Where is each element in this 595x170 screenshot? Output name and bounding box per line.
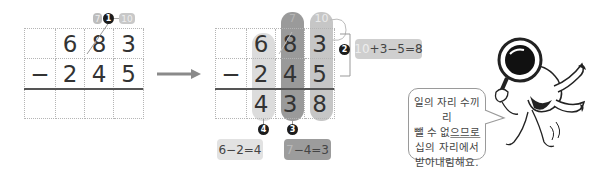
cell: −	[25, 59, 56, 89]
bubble-line-2: 뺄 수 없으므로	[413, 125, 481, 140]
crossed-to-tag: 7	[93, 13, 102, 24]
cell: 3	[114, 29, 144, 59]
cell	[56, 89, 85, 119]
borrowed-tag: 10	[119, 13, 135, 24]
step-2-prefix: 10	[354, 42, 369, 56]
right-arrow-icon	[155, 68, 201, 80]
step-3-badge: 3	[287, 124, 298, 135]
step-2-rest: +3−5=8	[370, 42, 423, 56]
cell: 4	[85, 59, 114, 89]
cell: 6	[247, 29, 276, 59]
cell: 4	[247, 89, 276, 119]
cell	[25, 29, 56, 59]
cell: 4	[276, 59, 305, 89]
cell	[25, 89, 56, 119]
step-2-equation: 10+3−5=8	[355, 39, 422, 59]
cell: 5	[114, 59, 144, 89]
cell: 3	[276, 89, 305, 119]
cell: −	[216, 59, 247, 89]
cell: 8	[305, 89, 335, 119]
bubble-line-1: 일의 자리 수끼리	[413, 95, 481, 125]
cell: 2	[56, 59, 85, 89]
magnifying-glass-character-icon	[488, 30, 588, 162]
answer-line	[24, 88, 143, 90]
right-subtraction-grid: 6 8 3 − 2 4 5 4 3 8	[215, 28, 335, 119]
cell	[216, 89, 247, 119]
step-3-equation: 7−4=3	[284, 139, 331, 160]
step-4-equation: 6−2=4	[217, 139, 263, 160]
step-3-prefix: 7	[286, 143, 294, 157]
bubble-line-3: 십의 자리에서	[413, 140, 481, 155]
cell	[216, 29, 247, 59]
step-4-badge: 4	[258, 124, 269, 135]
tens-borrow-note: 7	[285, 12, 300, 25]
bubble-line-4: 받아내림해요.	[413, 155, 481, 170]
step-3-rest: −4=3	[294, 143, 329, 157]
cross-out-slash	[84, 18, 114, 58]
cell: 2	[247, 59, 276, 89]
cell: 6	[56, 29, 85, 59]
answer-line	[215, 88, 334, 90]
cell	[114, 89, 144, 119]
step-2-badge: 2	[339, 44, 350, 55]
slash-mark	[276, 28, 296, 58]
speech-bubble: 일의 자리 수끼리 뺄 수 없으므로 십의 자리에서 받아내림해요.	[408, 88, 486, 160]
cell	[85, 89, 114, 119]
step-1-badge: 1	[103, 13, 114, 24]
